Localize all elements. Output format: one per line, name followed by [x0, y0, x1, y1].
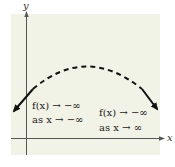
right-annotation-line1: f(x) → −∞	[99, 107, 148, 118]
x-axis-label: x	[167, 132, 173, 143]
y-axis-label: y	[22, 0, 29, 11]
right-annotation-line2: as x → ∞	[99, 122, 142, 133]
left-annotation-line2: as x → −∞	[32, 114, 83, 125]
plot-background	[11, 14, 160, 155]
left-annotation-line1: f(x) → −∞	[32, 100, 81, 111]
end-behavior-diagram: y x f(x) → −∞ as x → −∞ f(x) → −∞ as x →…	[0, 0, 175, 167]
